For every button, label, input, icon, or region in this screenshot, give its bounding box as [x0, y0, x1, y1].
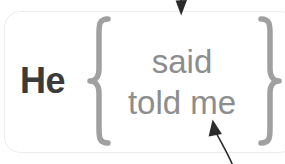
diagram-canvas: He said told me: [0, 0, 285, 164]
right-curly-brace-icon: [253, 15, 283, 147]
subject-word: He: [20, 58, 82, 104]
option-item: said: [152, 44, 213, 81]
option-item: told me: [128, 85, 236, 122]
options-group: said told me: [108, 24, 256, 142]
